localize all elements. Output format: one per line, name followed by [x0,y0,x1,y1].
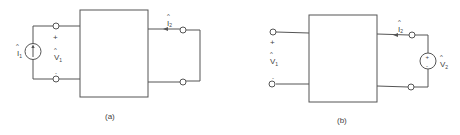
circuit-a [25,10,200,97]
source-label-a: I1 [17,49,22,59]
terminal-b2-bottom [408,84,414,90]
plus-sign-b: + [270,38,275,47]
two-port-box-b [309,15,377,102]
plus-sign-a: + [53,33,58,42]
terminal-a2-bottom [180,79,186,85]
caption-b: (b) [337,116,347,125]
two-port-diagrams: ^ I1 + ^ V1 - ^ I2 (a) + ^ V1 - ^ I2 + -… [0,0,460,135]
terminal-b1-top [270,29,276,35]
two-port-box-a [80,10,148,97]
voltage-label-b1: V1 [270,57,278,67]
terminal-b1-bottom [269,81,275,87]
caption-a: (a) [105,112,115,121]
current-label-b2: I2 [398,25,403,34]
circuit-b [269,15,436,102]
source-plus-b: + [426,54,430,60]
current-label-a2: I2 [167,19,172,28]
source-minus-b: - [426,63,428,69]
minus-sign-a: - [55,70,57,76]
minus-sign-b: - [272,75,274,81]
terminal-a1-bottom [53,76,59,82]
source-label-b: V2 [440,60,448,70]
terminal-a1-top [53,23,59,29]
terminal-b2-top [409,32,415,38]
terminal-a2-top [180,27,186,33]
voltage-label-a1: V1 [54,53,62,63]
